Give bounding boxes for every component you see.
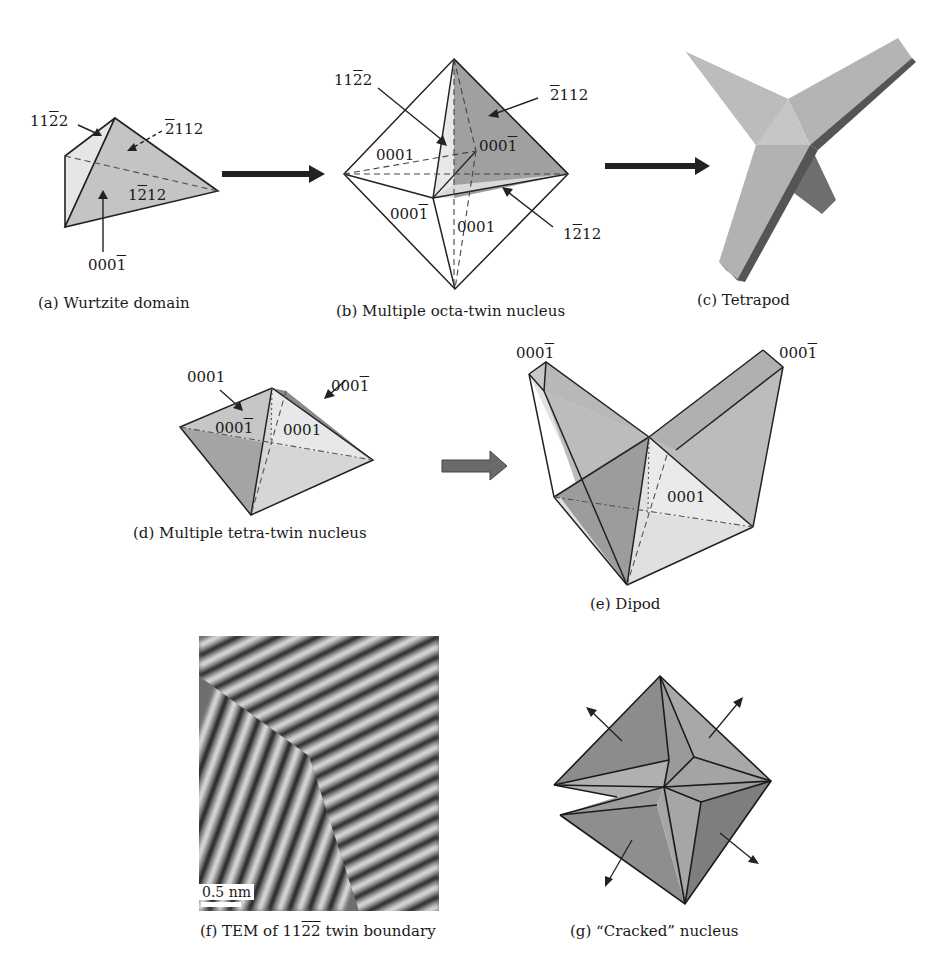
wurtzite-domain-illustration: [0, 0, 320, 330]
face-label-2bar-112: 2112: [550, 88, 588, 103]
face-label-0001-center: 0001: [667, 490, 705, 505]
scale-bar-label: 0.5 nm: [199, 884, 254, 900]
face-label-11-2bar-2: 1122: [30, 114, 68, 129]
face-label-000-1bar-lower: 0001: [390, 207, 428, 222]
face-label-0001-lower: 0001: [457, 220, 495, 235]
face-label-000-1bar-upper: 0001: [479, 139, 517, 154]
face-label-0001-arrow: 0001: [187, 370, 225, 385]
caption-a: (a) Wurtzite domain: [38, 296, 190, 311]
tetra-twin-illustration: [0, 300, 947, 630]
tem-lattice-fringes: [199, 636, 439, 911]
face-label-0001-face: 0001: [283, 423, 321, 438]
panel-a-wurtzite-domain: 1122 2112 1212 0001 (a) Wurtzite domain: [0, 0, 320, 330]
scale-bar: [201, 902, 241, 907]
face-label-000-1bar-face: 0001: [215, 421, 253, 436]
panel-f-tem-image: 0.5 nm: [199, 636, 439, 911]
caption-g: (g) “Cracked” nucleus: [570, 924, 739, 939]
face-label-000-1bar-left: 0001: [516, 346, 554, 361]
face-label-000-1bar-arrow: 0001: [331, 379, 369, 394]
caption-b: (b) Multiple octa-twin nucleus: [336, 304, 565, 319]
face-label-000-1bar-right: 0001: [779, 346, 817, 361]
caption-d: (d) Multiple tetra-twin nucleus: [133, 526, 367, 541]
face-label-000-1bar: 0001: [88, 258, 126, 273]
face-label-1-2bar-12: 1212: [563, 227, 601, 242]
face-label-0001-upper: 0001: [376, 148, 414, 163]
face-label-1-2bar-12: 1212: [128, 188, 166, 203]
caption-f: (f) TEM of 1122 twin boundary: [200, 924, 436, 939]
panel-d-tetra-twin-nucleus: 0001 0001 0001 0001 (d) Multiple tetra-t…: [0, 300, 947, 630]
caption-c: (c) Tetrapod: [697, 293, 790, 308]
caption-e: (e) Dipod: [590, 597, 660, 612]
face-label-2bar-112: 2112: [165, 122, 203, 137]
face-label-11-2bar-2: 1122: [334, 73, 372, 88]
